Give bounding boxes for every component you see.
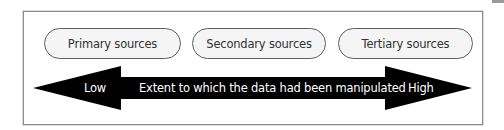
double-headed-arrow-icon — [0, 0, 504, 130]
low-label: Low — [84, 81, 106, 95]
high-label: High — [408, 81, 434, 95]
axis-title: Extent to which the data had been manipu… — [139, 81, 406, 95]
